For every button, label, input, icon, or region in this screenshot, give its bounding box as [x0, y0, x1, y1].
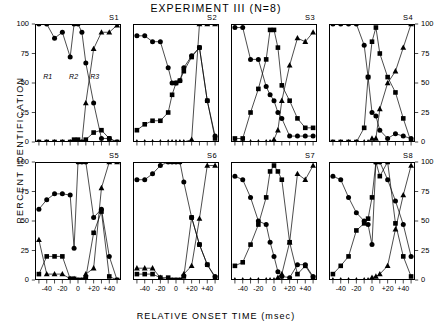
y-tick-label: 75: [421, 49, 438, 58]
y-tick-label: 50: [5, 78, 29, 87]
tick-layer: [329, 162, 417, 289]
panel-label: S1: [109, 13, 119, 22]
panel-s7: S7-40-200+20+40: [231, 162, 317, 280]
tick-layer: [35, 162, 123, 289]
y-tick-label: 75: [5, 49, 29, 58]
panel-s1: S11007550250R1R2R3: [35, 24, 121, 142]
tick-layer: [329, 24, 417, 151]
panel-label: S7: [305, 151, 315, 160]
panel-s5: S51007550250-40-200+20+40: [35, 162, 121, 280]
panel-label: S5: [109, 151, 119, 160]
x-axis-label: RELATIVE ONSET TIME (msec): [0, 311, 432, 321]
y-tick-label: 50: [421, 78, 438, 87]
y-tick-label: 75: [5, 187, 29, 196]
y-tick-label: 25: [5, 108, 29, 117]
x-tick-label: +40: [292, 285, 318, 292]
y-tick-label: 100: [5, 19, 29, 28]
y-tick-label: 50: [5, 216, 29, 225]
y-tick-label: 0: [5, 275, 29, 284]
y-tick-label: 25: [421, 246, 438, 255]
y-tick-label: 50: [421, 216, 438, 225]
tick-layer: [133, 24, 221, 151]
region-label-r1: R1: [43, 73, 52, 80]
x-tick-label: +40: [96, 285, 122, 292]
y-tick-label: 25: [421, 108, 438, 117]
tick-layer: [231, 162, 319, 289]
y-tick-label: 100: [5, 157, 29, 166]
panel-s8: S81007550250-40-200+20+40: [329, 162, 415, 280]
y-tick-label: 100: [421, 157, 438, 166]
x-tick-label: +40: [194, 285, 220, 292]
y-tick-label: 0: [5, 137, 29, 146]
y-tick-label: 100: [421, 19, 438, 28]
y-tick-label: 75: [421, 187, 438, 196]
panel-label: S6: [207, 151, 217, 160]
panel-s2: S2: [133, 24, 219, 142]
region-label-r2: R2: [69, 73, 78, 80]
panel-label: S8: [403, 151, 413, 160]
tick-layer: [133, 162, 221, 289]
tick-layer: [35, 24, 123, 151]
x-tick-label: +40: [390, 285, 416, 292]
y-tick-label: 0: [421, 137, 438, 146]
panel-label: S4: [403, 13, 413, 22]
y-axis-label: PERCENT IDENTIFICATION: [15, 60, 25, 240]
y-tick-label: 0: [421, 275, 438, 284]
tick-layer: [231, 24, 319, 151]
region-label-r3: R3: [90, 73, 99, 80]
panel-s4: S41007550250: [329, 24, 415, 142]
panel-s3: S3: [231, 24, 317, 142]
panel-label: S3: [305, 13, 315, 22]
y-tick-label: 25: [5, 246, 29, 255]
panel-label: S2: [207, 13, 217, 22]
panel-s6: S6-40-200+20+40: [133, 162, 219, 280]
